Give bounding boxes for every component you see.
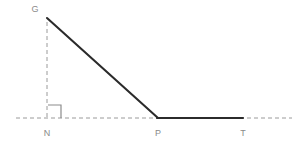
diagram-canvas: G N P T: [0, 0, 304, 147]
vertex-label-t: T: [240, 128, 246, 138]
geometry-figure: G N P T: [0, 0, 304, 147]
vertex-label-p: P: [155, 128, 161, 138]
vertex-label-n: N: [44, 128, 51, 138]
figure-background: [0, 0, 304, 147]
vertex-label-g: G: [31, 4, 38, 14]
